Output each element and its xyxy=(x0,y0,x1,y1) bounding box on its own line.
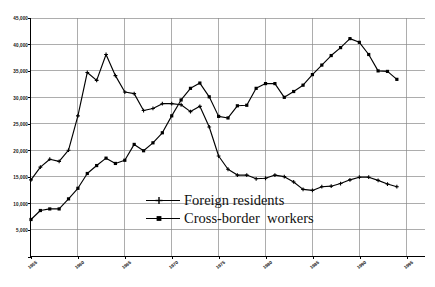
data-point xyxy=(170,102,174,106)
x-axis-tick-label: 1975 xyxy=(215,260,226,270)
data-point xyxy=(320,63,323,66)
data-point xyxy=(76,187,79,190)
y-axis-tick-label: 25,000 xyxy=(13,122,28,127)
series-line-foreign-residents xyxy=(31,54,397,190)
legend-label-foreign-residents: Foreign residents xyxy=(184,193,284,208)
data-point xyxy=(311,73,314,76)
data-point xyxy=(161,131,164,134)
data-point xyxy=(358,41,361,44)
y-tick-mark xyxy=(28,71,31,72)
data-point xyxy=(170,114,173,117)
data-point xyxy=(292,90,295,93)
x-tick-mark xyxy=(125,256,126,259)
y-tick-mark xyxy=(28,44,31,45)
data-point xyxy=(377,69,380,72)
data-point xyxy=(245,173,249,177)
y-tick-mark xyxy=(28,18,31,19)
legend-marker-plus-icon xyxy=(146,195,180,206)
x-tick-mark xyxy=(31,256,32,259)
data-point xyxy=(76,114,80,118)
x-tick-mark xyxy=(313,256,314,259)
data-point xyxy=(283,96,286,99)
data-point xyxy=(189,87,192,90)
data-point xyxy=(339,46,342,49)
data-point xyxy=(151,107,155,111)
data-point xyxy=(339,182,343,186)
data-point xyxy=(264,82,267,85)
y-axis-tick-label: 35,000 xyxy=(13,69,28,74)
chart-legend: Foreign residents Cross-border workers xyxy=(146,192,314,227)
y-axis-tick-label: 10,000 xyxy=(13,201,28,206)
x-tick-mark xyxy=(407,256,408,259)
data-point xyxy=(320,185,324,189)
data-point xyxy=(207,125,211,129)
y-axis-tick-label: 45,000 xyxy=(13,16,28,21)
data-point xyxy=(180,98,183,101)
data-point xyxy=(245,104,248,107)
x-axis-tick-label: 1960 xyxy=(74,260,85,270)
y-axis-tick-label: 20,000 xyxy=(13,148,28,153)
data-point xyxy=(114,162,117,165)
data-point xyxy=(208,95,211,98)
legend-item-foreign-residents: Foreign residents xyxy=(146,192,314,209)
data-point xyxy=(348,178,352,182)
data-point xyxy=(395,185,399,189)
y-axis-tick-label: 15,000 xyxy=(13,175,28,180)
x-tick-mark xyxy=(266,256,267,259)
chart-container: 5,00010,00015,00020,00025,00030,00035,00… xyxy=(0,0,435,287)
x-axis-tick-label: 1965 xyxy=(121,260,132,270)
y-tick-mark xyxy=(28,124,31,125)
legend-label-cross-border-workers: Cross-border workers xyxy=(184,211,314,226)
data-point xyxy=(273,173,277,177)
data-point xyxy=(142,149,145,152)
data-point xyxy=(58,207,61,210)
data-point xyxy=(348,37,351,40)
data-point xyxy=(198,81,201,84)
y-tick-mark xyxy=(28,97,31,98)
data-point xyxy=(226,116,229,119)
x-axis-tick-label: 1995 xyxy=(403,260,414,270)
data-point xyxy=(217,115,220,118)
y-tick-mark xyxy=(28,230,31,231)
data-point xyxy=(329,184,333,188)
data-point xyxy=(367,53,370,56)
x-axis-tick-label: 1980 xyxy=(262,260,273,270)
data-point xyxy=(254,177,258,181)
legend-item-cross-border-workers: Cross-border workers xyxy=(146,210,314,227)
data-point xyxy=(104,53,108,57)
data-point xyxy=(151,141,154,144)
data-point xyxy=(367,175,371,179)
data-point xyxy=(301,84,304,87)
data-point xyxy=(104,157,107,160)
x-tick-mark xyxy=(172,256,173,259)
data-point xyxy=(48,207,51,210)
data-point xyxy=(133,143,136,146)
data-point xyxy=(376,178,380,182)
x-axis-tick-label: 1970 xyxy=(168,260,179,270)
data-point xyxy=(123,159,126,162)
data-point xyxy=(160,102,164,106)
x-tick-mark xyxy=(78,256,79,259)
y-tick-mark xyxy=(28,203,31,204)
data-point xyxy=(395,78,398,81)
y-tick-mark xyxy=(28,177,31,178)
data-point xyxy=(255,87,258,90)
legend-marker-square-icon xyxy=(146,213,180,224)
data-point xyxy=(39,209,42,212)
data-point xyxy=(357,175,361,179)
data-point xyxy=(95,164,98,167)
y-axis-tick-label: 40,000 xyxy=(13,42,28,47)
data-point xyxy=(273,82,276,85)
data-point xyxy=(29,218,32,221)
y-tick-mark xyxy=(28,150,31,151)
data-point xyxy=(386,182,390,186)
x-axis-tick-label: 1955 xyxy=(27,260,38,270)
y-axis-tick-label: 5,000 xyxy=(16,228,28,233)
data-point xyxy=(236,104,239,107)
data-point xyxy=(264,176,268,180)
y-axis-tick-label: 30,000 xyxy=(13,95,28,100)
x-axis-tick-label: 1990 xyxy=(356,260,367,270)
data-point xyxy=(67,197,70,200)
data-point xyxy=(386,70,389,73)
x-axis-tick-label: 1985 xyxy=(309,260,320,270)
